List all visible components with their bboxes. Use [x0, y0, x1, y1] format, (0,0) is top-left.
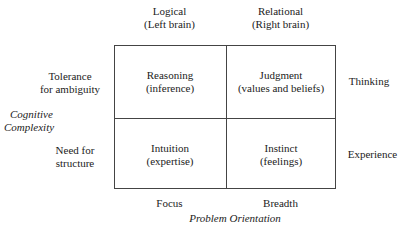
- quadrant-title: Intuition: [115, 142, 225, 155]
- y-axis-title-line1: Cognitive: [4, 108, 64, 121]
- x-axis-title: Problem Orientation: [160, 212, 310, 225]
- bottom-label-focus: Focus: [114, 197, 225, 210]
- quadrant-subtitle: (feelings): [226, 155, 336, 168]
- column-header-logical: Logical (Left brain): [114, 5, 225, 31]
- column-header-relational: Relational (Right brain): [225, 5, 336, 31]
- quadrant-title: Judgment: [226, 69, 336, 82]
- quadrant-reasoning: Reasoning (inference): [115, 69, 225, 95]
- bottom-label-breadth: Breadth: [225, 197, 336, 210]
- column-header-line1: Relational: [225, 5, 336, 18]
- column-header-line1: Logical: [114, 5, 225, 18]
- row-label-thinking: Thinking: [339, 75, 399, 88]
- horizontal-divider: [115, 118, 335, 119]
- quadrant-grid: Reasoning (inference) Judgment (values a…: [114, 45, 336, 189]
- column-header-line2: (Right brain): [225, 18, 336, 31]
- y-axis-title-line2: Complexity: [4, 121, 64, 134]
- quadrant-subtitle: (values and beliefs): [226, 82, 336, 95]
- quadrant-judgment: Judgment (values and beliefs): [226, 69, 336, 95]
- quadrant-intuition: Intuition (expertise): [115, 142, 225, 168]
- row-label-experience: Experience: [339, 148, 406, 161]
- row-label-line1: Tolerance: [30, 70, 110, 83]
- row-label-line2: structure: [40, 157, 110, 170]
- row-label-line1: Need for: [40, 144, 110, 157]
- row-label-need-for-structure: Need for structure: [40, 144, 110, 170]
- quadrant-title: Reasoning: [115, 69, 225, 82]
- quadrant-instinct: Instinct (feelings): [226, 142, 336, 168]
- quadrant-subtitle: (expertise): [115, 155, 225, 168]
- column-header-line2: (Left brain): [114, 18, 225, 31]
- quadrant-title: Instinct: [226, 142, 336, 155]
- row-label-tolerance: Tolerance for ambiguity: [30, 70, 110, 96]
- y-axis-title: Cognitive Complexity: [4, 108, 64, 134]
- row-label-line2: for ambiguity: [30, 83, 110, 96]
- quadrant-subtitle: (inference): [115, 82, 225, 95]
